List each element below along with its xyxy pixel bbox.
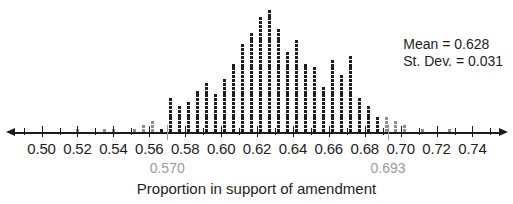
data-dot	[331, 102, 334, 105]
data-dot	[268, 87, 271, 90]
data-dot	[304, 79, 307, 82]
data-dot	[250, 91, 253, 94]
data-dot	[295, 106, 298, 109]
data-dot	[304, 64, 307, 67]
data-dot	[268, 117, 271, 120]
dot-column	[187, 0, 192, 136]
axis-minor-tick	[131, 128, 132, 135]
data-dot	[322, 87, 325, 90]
axis-major-tick	[437, 126, 438, 137]
data-dot	[295, 79, 298, 82]
data-dot	[277, 67, 280, 70]
data-dot	[331, 60, 334, 63]
data-dot	[259, 64, 262, 67]
data-dot	[187, 125, 190, 128]
axis-major-tick	[113, 126, 114, 137]
data-dot	[295, 56, 298, 59]
data-dot	[259, 75, 262, 78]
data-dot	[304, 98, 307, 101]
data-dot	[277, 125, 280, 128]
data-dot	[322, 106, 325, 109]
data-dot	[313, 114, 316, 117]
data-dot	[205, 102, 208, 105]
data-dot	[214, 121, 217, 124]
data-dot	[295, 102, 298, 105]
data-dot	[295, 64, 298, 67]
data-dot	[286, 110, 289, 113]
data-dot	[169, 121, 172, 124]
data-dot	[313, 106, 316, 109]
data-dot	[304, 117, 307, 120]
data-dot	[259, 52, 262, 55]
dot-column	[358, 0, 363, 136]
data-dot	[178, 125, 181, 128]
data-dot	[250, 56, 253, 59]
dot-column	[295, 0, 300, 136]
data-dot	[169, 98, 172, 101]
data-dot	[250, 94, 253, 97]
dot-column	[196, 0, 201, 136]
dot-column	[385, 0, 390, 136]
data-dot	[340, 102, 343, 105]
data-dot	[277, 117, 280, 120]
data-dot	[250, 98, 253, 101]
data-dot	[241, 64, 244, 67]
axis-major-tick	[42, 126, 43, 137]
data-dot	[358, 125, 361, 128]
dot-column	[205, 0, 210, 136]
data-dot	[178, 106, 181, 109]
data-dot	[304, 87, 307, 90]
data-dot	[259, 79, 262, 82]
data-dot	[322, 98, 325, 101]
data-dot	[358, 110, 361, 113]
data-dot	[232, 102, 235, 105]
data-dot	[358, 121, 361, 124]
data-dot	[250, 64, 253, 67]
data-dot	[286, 79, 289, 82]
data-dot	[277, 71, 280, 74]
data-dot	[349, 106, 352, 109]
dot-column	[133, 0, 138, 136]
data-dot	[322, 91, 325, 94]
axis-major-tick	[401, 126, 402, 137]
axis-minor-tick	[60, 128, 61, 135]
axis-major-tick	[257, 126, 258, 137]
data-dot	[241, 102, 244, 105]
data-dot	[241, 56, 244, 59]
data-dot	[331, 75, 334, 78]
x-tick-label: 0.66	[315, 140, 343, 157]
dot-column	[232, 0, 237, 136]
data-dot	[223, 91, 226, 94]
data-dot	[223, 87, 226, 90]
dot-column	[349, 0, 354, 136]
x-tick-label: 0.74	[458, 140, 486, 157]
data-dot	[214, 98, 217, 101]
data-dot	[232, 79, 235, 82]
data-dot	[268, 98, 271, 101]
mean-label: Mean = 0.628	[403, 36, 503, 53]
data-dot	[241, 106, 244, 109]
data-dot	[340, 79, 343, 82]
data-dot	[277, 44, 280, 47]
data-dot	[259, 17, 262, 20]
data-dot	[205, 83, 208, 86]
data-dot	[223, 106, 226, 109]
data-dot	[277, 29, 280, 32]
data-dot	[250, 40, 253, 43]
data-dot	[223, 121, 226, 124]
data-dot	[304, 94, 307, 97]
data-dot	[385, 117, 388, 120]
data-dot	[295, 94, 298, 97]
dot-column	[223, 0, 228, 136]
data-dot	[232, 91, 235, 94]
data-dot	[241, 125, 244, 128]
data-dot	[268, 64, 271, 67]
data-dot	[259, 106, 262, 109]
data-dot	[259, 29, 262, 32]
data-dot	[358, 106, 361, 109]
data-dot	[214, 110, 217, 113]
data-dot	[259, 117, 262, 120]
data-dot	[295, 98, 298, 101]
data-dot	[250, 106, 253, 109]
data-dot	[268, 29, 271, 32]
